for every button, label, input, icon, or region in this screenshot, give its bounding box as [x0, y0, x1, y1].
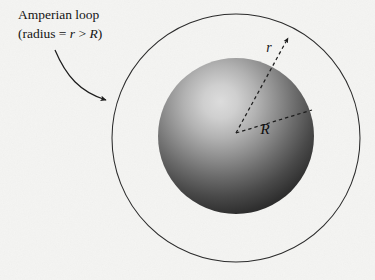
conducting-sphere [158, 58, 314, 214]
caption-variable-R: R [90, 26, 98, 41]
caption-title: Amperian loop [18, 7, 99, 22]
caption-radius-condition: (radius = r > R) [18, 25, 102, 44]
outer-radius-label: r [266, 40, 272, 55]
physics-diagram-amperian-loop: r R Amperian loop (radius = r > R) [0, 0, 375, 280]
amperian-loop-caption: Amperian loop (radius = r > R) [18, 6, 102, 43]
caption-prefix: (radius = [18, 26, 70, 41]
caption-suffix: ) [98, 26, 103, 41]
caption-relation: > [75, 26, 89, 41]
inner-radius-label: R [259, 121, 269, 137]
